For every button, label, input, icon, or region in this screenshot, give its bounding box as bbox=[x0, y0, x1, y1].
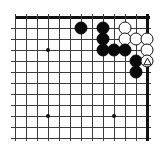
grid-line-vertical bbox=[70, 14, 71, 141]
grid-line-horizontal-edge bbox=[15, 16, 150, 19]
grid-line-vertical bbox=[114, 14, 115, 141]
grid-line-vertical bbox=[37, 14, 38, 141]
hoshi-lower-right bbox=[112, 114, 116, 118]
hoshi-lower-left bbox=[46, 114, 50, 118]
triangle-mark-icon bbox=[143, 57, 152, 66]
go-board-diagram bbox=[0, 0, 163, 149]
black-stone[interactable] bbox=[75, 22, 88, 35]
grid-line-vertical bbox=[26, 14, 27, 141]
grid-line-vertical bbox=[48, 14, 49, 141]
grid-line-vertical bbox=[15, 14, 16, 141]
grid-line-vertical bbox=[92, 14, 93, 141]
black-stone[interactable] bbox=[130, 66, 143, 79]
black-stone[interactable] bbox=[119, 44, 132, 57]
white-stone-marked-triangle[interactable] bbox=[141, 55, 154, 68]
grid-line-vertical bbox=[59, 14, 60, 141]
hoshi-upper-left bbox=[46, 48, 50, 52]
